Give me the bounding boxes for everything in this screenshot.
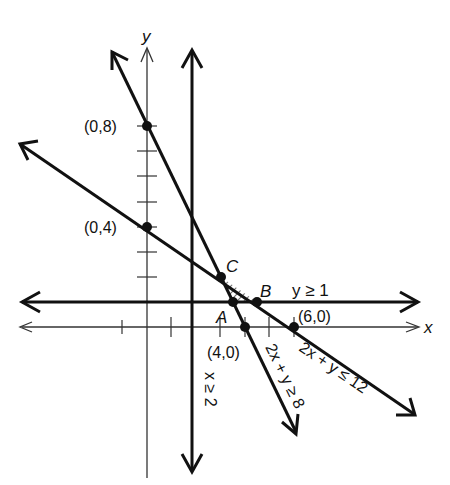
label-vertex-A: A (215, 308, 227, 327)
vertex-A (228, 297, 238, 307)
label-point-0-8: (0,8) (84, 118, 117, 135)
label-vertex-B: B (260, 282, 271, 301)
linear-programming-diagram: y x x ≥ 2 y ≥ 1 2x + y ≥ 8 (0, 0, 450, 485)
constraint-label-x-ge-2: x ≥ 2 (202, 372, 219, 407)
point-0-8 (142, 121, 152, 131)
point-0-4 (142, 222, 152, 232)
label-point-6-0: (6,0) (298, 308, 331, 325)
y-axis-label: y (141, 27, 152, 46)
constraint-label-2x-plus-y-le-12: 2x + y ≤ 12 (296, 338, 371, 396)
points (142, 121, 299, 332)
label-point-4-0: (4,0) (207, 344, 240, 361)
label-point-0-4: (0,4) (84, 219, 117, 236)
label-vertex-C: C (226, 257, 239, 276)
constraint-label-y-ge-1: y ≥ 1 (292, 281, 329, 300)
x-axis-label: x (423, 318, 433, 337)
point-4-0 (240, 322, 250, 332)
vertex-C (216, 272, 226, 282)
